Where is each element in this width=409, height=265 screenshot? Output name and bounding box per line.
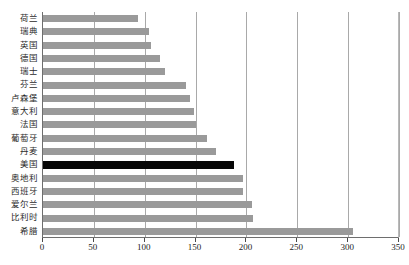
- bar-row: 西班牙: [0, 185, 409, 198]
- bar-default: [43, 215, 253, 222]
- category-label: 法国: [0, 118, 38, 131]
- category-label: 奥地利: [0, 172, 38, 185]
- bar-row: 荷兰: [0, 12, 409, 25]
- bar-row: 爱尔兰: [0, 198, 409, 211]
- bar-default: [43, 175, 243, 182]
- bar-default: [43, 135, 207, 142]
- bar-default: [43, 55, 160, 62]
- bar-default: [43, 188, 243, 195]
- bar-default: [43, 148, 216, 155]
- bar-default: [43, 15, 138, 22]
- bar-row: 美国: [0, 158, 409, 171]
- bar-row: 瑞士: [0, 65, 409, 78]
- bar-chart: 荷兰瑞典英国德国瑞士芬兰卢森堡意大利法国葡萄牙丹麦美国奥地利西班牙爱尔兰比利时希…: [0, 0, 409, 265]
- bar-row: 葡萄牙: [0, 132, 409, 145]
- bar-rows: 荷兰瑞典英国德国瑞士芬兰卢森堡意大利法国葡萄牙丹麦美国奥地利西班牙爱尔兰比利时希…: [0, 12, 409, 238]
- bar-default: [43, 42, 151, 49]
- bar-row: 意大利: [0, 105, 409, 118]
- x-tick-label: 200: [239, 242, 253, 252]
- bar-row: 希腊: [0, 225, 409, 238]
- category-label: 比利时: [0, 211, 38, 224]
- x-axis: 050100150200250300350: [42, 238, 399, 258]
- category-label: 荷兰: [0, 12, 38, 25]
- bar-row: 法国: [0, 118, 409, 131]
- category-label: 爱尔兰: [0, 198, 38, 211]
- bar-row: 丹麦: [0, 145, 409, 158]
- category-label: 英国: [0, 39, 38, 52]
- bar-default: [43, 108, 194, 115]
- category-label: 瑞典: [0, 25, 38, 38]
- bar-default: [43, 228, 353, 235]
- x-tick-label: 100: [137, 242, 151, 252]
- bar-default: [43, 68, 165, 75]
- category-label: 瑞士: [0, 65, 38, 78]
- bar-default: [43, 121, 196, 128]
- bar-row: 芬兰: [0, 78, 409, 91]
- bar-row: 德国: [0, 52, 409, 65]
- category-label: 芬兰: [0, 78, 38, 91]
- bar-default: [43, 28, 149, 35]
- bar-row: 奥地利: [0, 172, 409, 185]
- x-tick-label: 50: [88, 242, 97, 252]
- bar-default: [43, 95, 190, 102]
- x-tick-label: 350: [391, 242, 405, 252]
- category-label: 卢森堡: [0, 92, 38, 105]
- bar-row: 瑞典: [0, 25, 409, 38]
- bar-row: 比利时: [0, 211, 409, 224]
- category-label: 西班牙: [0, 185, 38, 198]
- x-tick-label: 0: [40, 242, 45, 252]
- bar-highlighted: [43, 161, 234, 169]
- category-label: 意大利: [0, 105, 38, 118]
- category-label: 葡萄牙: [0, 132, 38, 145]
- category-label: 美国: [0, 158, 38, 171]
- bar-default: [43, 201, 252, 208]
- category-label: 德国: [0, 52, 38, 65]
- bar-default: [43, 82, 186, 89]
- category-label: 丹麦: [0, 145, 38, 158]
- bar-row: 英国: [0, 39, 409, 52]
- x-tick-label: 250: [290, 242, 304, 252]
- x-tick-label: 300: [340, 242, 354, 252]
- bar-row: 卢森堡: [0, 92, 409, 105]
- category-label: 希腊: [0, 225, 38, 238]
- x-tick-label: 150: [188, 242, 202, 252]
